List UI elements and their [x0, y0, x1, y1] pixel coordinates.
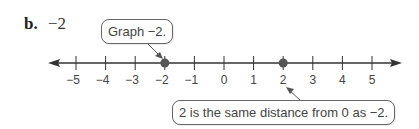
tick-label: −1	[185, 73, 199, 87]
tick-label: 3	[309, 73, 316, 87]
graph-callout: Graph −2.	[101, 19, 173, 44]
tick-label: −4	[96, 73, 110, 87]
plotted-point	[160, 59, 169, 68]
tick-label: 4	[339, 73, 346, 87]
top-callout-pointer	[146, 42, 163, 59]
plotted-point	[279, 59, 288, 68]
tick-label: 0	[221, 73, 228, 87]
tick-label: 5	[369, 73, 376, 87]
tick-label: −2	[155, 73, 169, 87]
tick-label: −3	[125, 73, 139, 87]
bottom-callout-pointer	[286, 87, 300, 100]
tick-label: 1	[250, 73, 257, 87]
distance-callout: 2 is the same distance from 0 as −2.	[172, 100, 395, 125]
tick-label: −5	[66, 73, 80, 87]
tick-label: 2	[280, 73, 287, 87]
tick-label-group: −5−4−3−2−1012345	[66, 73, 376, 87]
